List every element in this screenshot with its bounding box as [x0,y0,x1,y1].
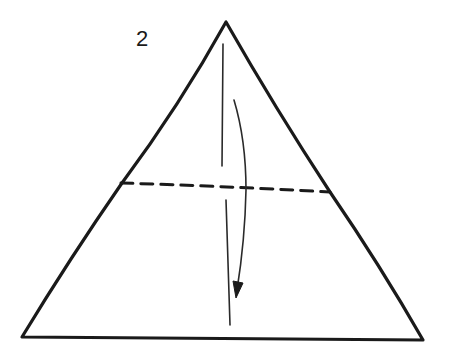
fold-arrow-head-icon [233,281,243,298]
valley-fold-line [121,183,330,192]
origami-fold-diagram [0,0,462,355]
fold-arrow-shaft [234,100,246,290]
center-crease-lower [226,200,230,325]
center-crease-upper [222,44,223,166]
